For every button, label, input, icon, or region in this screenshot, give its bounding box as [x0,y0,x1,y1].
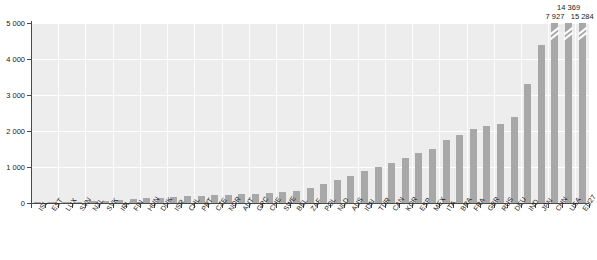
bar [415,153,422,203]
bar-series [31,23,589,203]
y-tick-label: 2 000 [0,127,25,136]
bar [551,23,558,203]
axis-break-mark [579,27,586,40]
bar [579,23,586,203]
y-tick-label: 0 [0,199,25,208]
bar [375,167,382,203]
bar [483,126,490,203]
y-axis-line [31,21,32,205]
y-tick-mark [27,131,32,132]
bar [388,163,395,203]
y-tick-label: 4 000 [0,55,25,64]
bar [524,84,531,203]
bar [402,158,409,203]
y-tick-mark [27,59,32,60]
bar [497,124,504,203]
bar-value-label: 7 927 [546,12,565,21]
bar-value-label: 15 284 [571,12,594,21]
bar [565,23,572,203]
y-tick-label: 3 000 [0,91,25,100]
y-tick-mark [27,167,32,168]
y-tick-label: 5 000 [0,19,25,28]
bar [538,45,545,203]
bar [470,129,477,203]
bar-value-label: 14 369 [557,3,580,12]
bar [456,135,463,203]
bar [443,140,450,203]
axis-break-mark [551,27,558,40]
bar [511,117,518,203]
x-axis-category-labels: ISLESTLUXSVNNZLSVKIRLFINHUNDNKISRCHLPRTC… [31,208,589,258]
bar [429,149,436,203]
y-tick-mark [27,95,32,96]
plot-area [31,23,589,203]
y-tick-label: 1 000 [0,163,25,172]
value-annotations: 7 92714 36915 284 [31,0,589,24]
axis-break-mark [565,27,572,40]
